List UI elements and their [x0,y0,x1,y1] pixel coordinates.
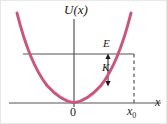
y-axis-label: U(x) [64,3,88,16]
x-axis-label: x [155,96,160,108]
kinetic-energy-label: K [102,62,109,73]
potential-energy-diagram: U(x) x E K 0 x0 [0,0,167,124]
origin-label: 0 [70,106,76,118]
turning-point-label: x0 [127,105,136,120]
turning-point-subscript: 0 [132,111,136,120]
total-energy-label: E [103,38,110,49]
plot-canvas [1,1,167,124]
